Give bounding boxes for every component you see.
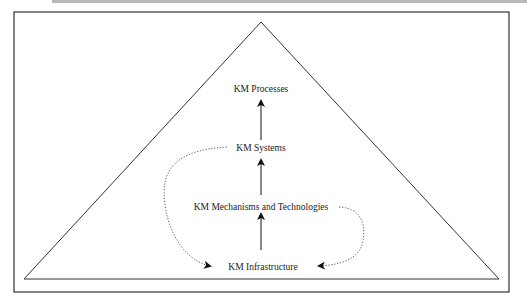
label-km-mechanisms-technologies: KM Mechanisms and Technologies [194,202,329,212]
label-km-systems: KM Systems [236,143,286,153]
km-pyramid-diagram: KM Processes KM Systems KM Mechanisms an… [0,0,527,304]
label-km-infrastructure: KM Infrastructure [228,262,297,272]
label-km-processes: KM Processes [234,84,289,94]
dotted-arrow-mech-to-infra [319,207,364,266]
